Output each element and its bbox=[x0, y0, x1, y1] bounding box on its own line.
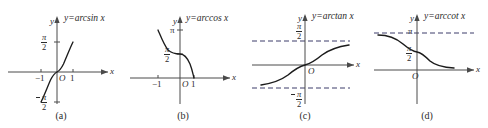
x-tick-label-1-a: 1 bbox=[70, 74, 75, 83]
curve-arccot bbox=[378, 35, 454, 68]
caption-d: (d) bbox=[366, 110, 488, 121]
panel-arccos: y=arccos x y x O −1 1 π π 2 (b) bbox=[122, 0, 244, 128]
x-axis-arrow bbox=[223, 75, 230, 80]
panel-arccot: y=arccot x y x O π π 2 (d) bbox=[366, 0, 488, 128]
origin-label-b: O bbox=[182, 80, 189, 89]
y-tick-label-pi-d: π bbox=[408, 27, 413, 36]
y-tick-label-pi-b: π bbox=[170, 26, 175, 35]
x-axis-label-c: x bbox=[356, 60, 360, 69]
caption-b: (b) bbox=[122, 110, 244, 121]
x-axis-arrow bbox=[347, 62, 354, 67]
x-axis-arrow bbox=[467, 67, 474, 72]
y-tick-label-pi-over-2-a: π 2 bbox=[41, 33, 47, 51]
minus-sign-icon bbox=[291, 94, 295, 95]
equation-label-arctan: y=arctan x bbox=[312, 12, 354, 22]
x-axis-label-d: x bbox=[476, 65, 480, 74]
equation-label-arccot: y=arccot x bbox=[424, 12, 465, 22]
origin-label-c: O bbox=[308, 67, 315, 76]
minus-sign-icon bbox=[36, 97, 40, 98]
y-axis-arrow bbox=[177, 16, 182, 23]
x-tick-label-neg1-a: −1 bbox=[35, 74, 45, 83]
y-axis-arrow bbox=[414, 14, 419, 21]
caption-c: (c) bbox=[244, 110, 366, 121]
y-tick-label-pi-over-2-d: π 2 bbox=[406, 44, 412, 62]
y-axis-arrow bbox=[302, 14, 307, 21]
x-axis-label-a: x bbox=[110, 67, 114, 76]
equation-label-arcsin: y=arcsin x bbox=[64, 14, 105, 24]
y-tick-label-pi-over-2-b: π 2 bbox=[164, 45, 170, 63]
panel-arctan: y=arctan x y x O π 2 π 2 (c) bbox=[244, 0, 366, 128]
origin-label-a: O bbox=[59, 74, 66, 83]
x-tick-label-1-b: 1 bbox=[191, 80, 196, 89]
equation-label-arccos: y=arccos x bbox=[186, 14, 228, 24]
y-axis-label-d: y bbox=[410, 14, 414, 23]
y-tick-label-pi-over-2-c: π 2 bbox=[296, 22, 302, 40]
x-tick-label-neg1-b: −1 bbox=[152, 80, 162, 89]
y-tick-label-neg-pi-over-2-a: π 2 bbox=[41, 93, 47, 111]
panel-arcsin: y=arcsin x y x O −1 1 π 2 π 2 (a) bbox=[0, 0, 122, 128]
origin-label-d: O bbox=[412, 72, 419, 81]
y-axis-arrow bbox=[54, 16, 59, 23]
x-axis-label-b: x bbox=[232, 73, 236, 82]
caption-a: (a) bbox=[0, 110, 122, 121]
x-axis-arrow bbox=[101, 69, 108, 74]
y-tick-label-neg-pi-over-2-c: π 2 bbox=[296, 90, 302, 108]
y-axis-label-a: y bbox=[50, 17, 54, 26]
inverse-trig-functions-figure: y=arcsin x y x O −1 1 π 2 π 2 (a) bbox=[0, 0, 488, 128]
